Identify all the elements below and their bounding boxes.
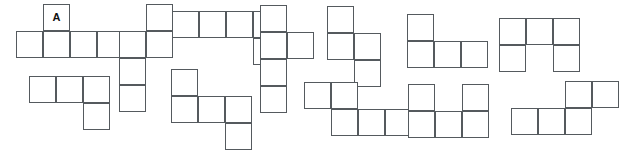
square-cell xyxy=(260,5,287,32)
square-cell xyxy=(407,14,434,41)
square-cell xyxy=(358,109,385,136)
square-cell xyxy=(354,60,381,87)
square-cell xyxy=(327,6,354,33)
square-cell xyxy=(226,11,253,38)
square-cell xyxy=(462,84,489,111)
square-cell xyxy=(526,18,553,45)
square-cell xyxy=(327,33,354,60)
square-cell xyxy=(553,45,580,72)
square-cell xyxy=(171,96,198,123)
square-cell xyxy=(225,123,252,150)
square-cell xyxy=(408,84,435,111)
square-cell: A xyxy=(43,4,70,31)
square-cell xyxy=(225,96,252,123)
square-cell xyxy=(260,86,287,113)
square-cell xyxy=(146,31,173,58)
square-cell xyxy=(56,76,83,103)
square-cell xyxy=(331,109,358,136)
square-cell xyxy=(499,45,526,72)
square-cell xyxy=(354,33,381,60)
square-cell xyxy=(260,59,287,86)
square-cell xyxy=(511,108,538,135)
square-cell xyxy=(408,111,435,138)
square-cell xyxy=(16,31,43,58)
square-cell xyxy=(70,31,97,58)
square-cell xyxy=(146,4,173,31)
square-cell xyxy=(287,32,314,59)
square-cell xyxy=(461,41,488,68)
square-cell xyxy=(119,58,146,85)
square-cell xyxy=(83,103,110,130)
square-cell xyxy=(172,11,199,38)
square-cell xyxy=(171,69,198,96)
square-cell xyxy=(592,81,619,108)
square-cell xyxy=(565,108,592,135)
square-cell xyxy=(199,11,226,38)
square-cell xyxy=(260,32,287,59)
square-cell xyxy=(434,41,461,68)
square-cell xyxy=(435,111,462,138)
square-cell xyxy=(553,18,580,45)
square-cell xyxy=(304,82,331,109)
square-cell xyxy=(538,108,565,135)
square-cell xyxy=(29,76,56,103)
square-cell xyxy=(331,82,358,109)
square-cell xyxy=(83,76,110,103)
square-cell xyxy=(119,31,146,58)
square-cell xyxy=(565,81,592,108)
square-cell xyxy=(407,41,434,68)
square-cell xyxy=(499,18,526,45)
square-cell xyxy=(462,111,489,138)
cell-label-a: A xyxy=(44,5,69,30)
square-cell xyxy=(43,31,70,58)
square-cell xyxy=(119,85,146,112)
square-cell xyxy=(198,96,225,123)
